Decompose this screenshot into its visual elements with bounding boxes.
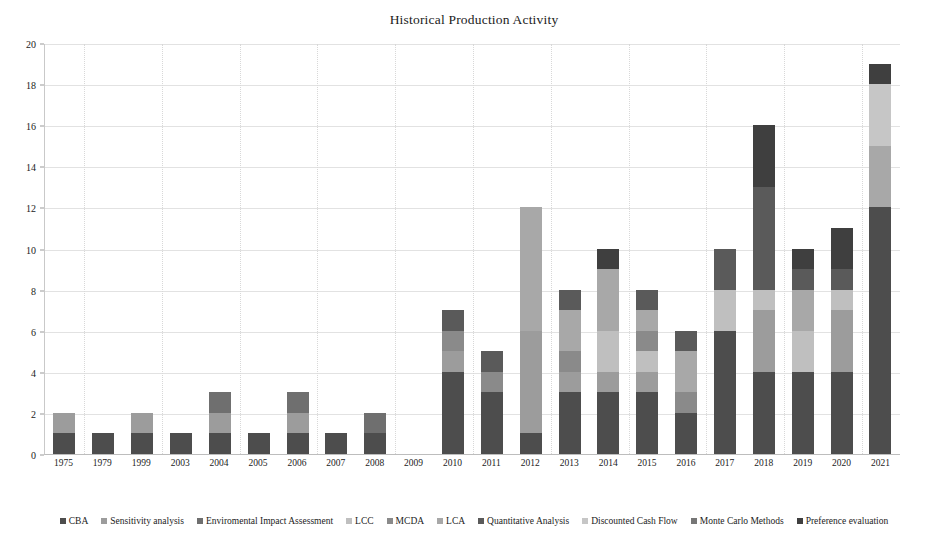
bar-stack[interactable] (442, 310, 464, 454)
bar-segment[interactable] (792, 331, 814, 372)
bar-segment[interactable] (559, 392, 581, 454)
bar-stack[interactable] (481, 351, 503, 454)
legend-item[interactable]: Sensitivity analysis (101, 516, 184, 526)
bar-segment[interactable] (287, 392, 309, 413)
bar-segment[interactable] (248, 433, 270, 454)
bar-stack[interactable] (325, 433, 347, 454)
bar-segment[interactable] (753, 290, 775, 311)
bar-segment[interactable] (287, 433, 309, 454)
bar-segment[interactable] (209, 392, 231, 413)
bar-segment[interactable] (753, 372, 775, 454)
bar-segment[interactable] (170, 433, 192, 454)
bar-column[interactable] (395, 44, 434, 454)
bar-segment[interactable] (481, 351, 503, 372)
bar-segment[interactable] (831, 228, 853, 269)
bar-segment[interactable] (636, 310, 658, 331)
bar-column[interactable] (744, 44, 783, 454)
bar-stack[interactable] (597, 249, 619, 454)
bar-segment[interactable] (636, 392, 658, 454)
bar-segment[interactable] (869, 64, 891, 85)
bar-column[interactable] (472, 44, 511, 454)
bar-segment[interactable] (520, 331, 542, 434)
bar-segment[interactable] (831, 290, 853, 311)
bar-column[interactable] (317, 44, 356, 454)
bar-segment[interactable] (675, 331, 697, 352)
bar-stack[interactable] (364, 413, 386, 454)
bar-segment[interactable] (520, 433, 542, 454)
legend-item[interactable]: LCC (346, 516, 373, 526)
bar-column[interactable] (628, 44, 667, 454)
bar-stack[interactable] (636, 290, 658, 454)
bar-segment[interactable] (287, 413, 309, 434)
bar-column[interactable] (84, 44, 123, 454)
bar-segment[interactable] (869, 84, 891, 146)
bar-segment[interactable] (753, 125, 775, 187)
bar-segment[interactable] (792, 372, 814, 454)
bar-column[interactable] (511, 44, 550, 454)
bar-column[interactable] (162, 44, 201, 454)
bar-segment[interactable] (675, 413, 697, 454)
bar-segment[interactable] (753, 310, 775, 372)
bar-stack[interactable] (287, 392, 309, 454)
bar-segment[interactable] (597, 331, 619, 372)
bar-stack[interactable] (209, 392, 231, 454)
bar-column[interactable] (356, 44, 395, 454)
bar-segment[interactable] (442, 351, 464, 372)
legend-item[interactable]: Enviromental Impact Assessment (197, 516, 333, 526)
bar-column[interactable] (278, 44, 317, 454)
bar-segment[interactable] (792, 290, 814, 331)
bar-segment[interactable] (831, 269, 853, 290)
bar-segment[interactable] (636, 372, 658, 393)
bar-segment[interactable] (559, 351, 581, 372)
bar-column[interactable] (45, 44, 84, 454)
bar-column[interactable] (434, 44, 473, 454)
bar-column[interactable] (239, 44, 278, 454)
bar-stack[interactable] (675, 331, 697, 454)
bar-segment[interactable] (442, 310, 464, 331)
bar-segment[interactable] (481, 392, 503, 454)
bar-segment[interactable] (209, 413, 231, 434)
bar-segment[interactable] (131, 433, 153, 454)
bar-column[interactable] (783, 44, 822, 454)
bar-segment[interactable] (597, 269, 619, 331)
bar-segment[interactable] (53, 433, 75, 454)
bar-stack[interactable] (869, 64, 891, 454)
bar-segment[interactable] (636, 290, 658, 311)
bar-segment[interactable] (364, 433, 386, 454)
bar-stack[interactable] (248, 433, 270, 454)
bar-segment[interactable] (442, 331, 464, 352)
bar-segment[interactable] (325, 433, 347, 454)
bar-segment[interactable] (597, 249, 619, 270)
legend-item[interactable]: Discounted Cash Flow (582, 516, 678, 526)
bar-segment[interactable] (559, 372, 581, 393)
bar-segment[interactable] (714, 331, 736, 454)
bar-stack[interactable] (92, 433, 114, 454)
bar-segment[interactable] (675, 351, 697, 392)
bar-segment[interactable] (792, 249, 814, 270)
bar-segment[interactable] (559, 310, 581, 351)
bar-segment[interactable] (559, 290, 581, 311)
bar-segment[interactable] (714, 249, 736, 290)
bar-segment[interactable] (714, 290, 736, 331)
bar-segment[interactable] (636, 331, 658, 352)
bar-column[interactable] (589, 44, 628, 454)
bar-stack[interactable] (792, 249, 814, 454)
bar-stack[interactable] (714, 249, 736, 454)
bar-segment[interactable] (442, 372, 464, 454)
bar-segment[interactable] (92, 433, 114, 454)
bar-segment[interactable] (53, 413, 75, 434)
bar-column[interactable] (200, 44, 239, 454)
bar-segment[interactable] (675, 392, 697, 413)
bar-segment[interactable] (753, 187, 775, 290)
bar-segment[interactable] (597, 372, 619, 393)
legend-item[interactable]: CBA (60, 516, 89, 526)
bar-segment[interactable] (792, 269, 814, 290)
bar-segment[interactable] (869, 146, 891, 208)
bar-segment[interactable] (636, 351, 658, 372)
bar-stack[interactable] (831, 228, 853, 454)
bar-segment[interactable] (520, 207, 542, 330)
bar-column[interactable] (123, 44, 162, 454)
bar-stack[interactable] (131, 413, 153, 454)
bar-segment[interactable] (364, 413, 386, 434)
bar-column[interactable] (550, 44, 589, 454)
